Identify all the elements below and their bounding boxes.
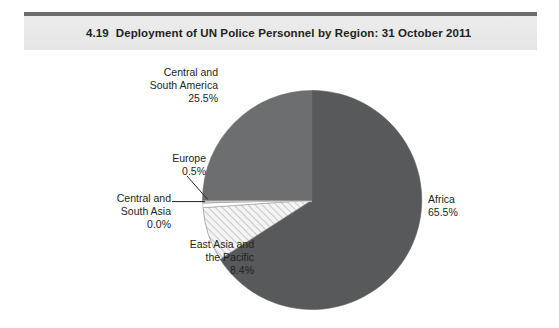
- slice-label-line2: South America: [150, 79, 218, 91]
- slice-label-line1: Central and: [164, 66, 218, 78]
- slice-value: 8.4%: [190, 264, 254, 277]
- slice-label-line2: the Pacific: [206, 251, 254, 263]
- slice-label-line1: Central and: [117, 192, 171, 204]
- slice-label-line1: Europe: [172, 152, 206, 164]
- pie-svg: [0, 0, 559, 328]
- slice-value: 65.5%: [428, 206, 458, 219]
- chart-page: 4.19Deployment of UN Police Personnel by…: [0, 0, 559, 328]
- slice-label-line2: South Asia: [121, 205, 171, 217]
- pie-slice-central-south-america: [202, 91, 312, 201]
- slice-label-central-south-america: Central and South America 25.5%: [150, 66, 218, 106]
- slice-label-line1: Africa: [428, 193, 455, 205]
- slice-label-east-asia-pacific: East Asia and the Pacific 8.4%: [190, 238, 254, 278]
- pie-chart: Central and South America 25.5% Europe 0…: [0, 0, 559, 328]
- slice-label-africa: Africa 65.5%: [428, 193, 458, 219]
- slice-value: 0.0%: [117, 218, 171, 231]
- slice-value: 0.5%: [172, 165, 206, 178]
- slice-label-line1: East Asia and: [190, 238, 254, 250]
- slice-label-central-south-asia: Central and South Asia 0.0%: [117, 192, 171, 232]
- slice-label-europe: Europe 0.5%: [172, 152, 206, 178]
- slice-value: 25.5%: [150, 92, 218, 105]
